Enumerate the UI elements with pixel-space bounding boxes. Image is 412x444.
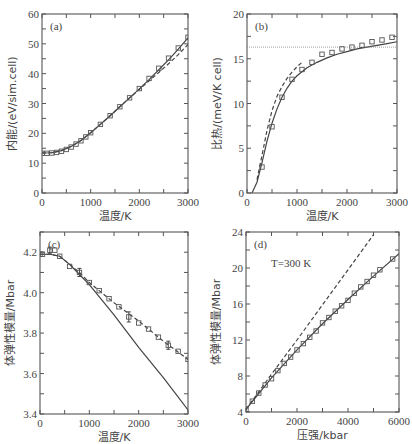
panel-label: (a)	[50, 20, 63, 33]
x-tick-label: 3000	[177, 196, 200, 208]
plot-area	[40, 35, 190, 155]
y-axis-label: 内能/(eV/sim.cell)	[5, 56, 19, 150]
y-tick-label: 30	[28, 98, 40, 110]
x-tick-label: 4000	[337, 415, 360, 427]
x-tick-label: 6000	[388, 415, 411, 427]
data-marker-square	[330, 50, 334, 54]
y-tick-label: 4.0	[23, 287, 37, 299]
data-marker-square	[370, 40, 374, 44]
x-tick-label: 0	[37, 417, 43, 429]
data-marker-square	[380, 38, 384, 42]
x-tick-label: 1000	[286, 196, 309, 208]
plot-area	[244, 235, 399, 412]
y-tick-label: 3.6	[23, 368, 37, 380]
panel-label: (d)	[254, 238, 267, 251]
x-axis-label: 温度/K	[98, 430, 132, 444]
y-tick-label: 0	[34, 187, 40, 199]
x-tick-label: 0	[244, 196, 250, 208]
x-tick-label: 0	[39, 196, 45, 208]
y-tick-label: 60	[28, 8, 40, 20]
x-tick-label: 0	[243, 415, 249, 427]
y-tick-label: 0	[239, 187, 245, 199]
y-tick-label: 8	[238, 370, 244, 382]
plot-frame	[40, 232, 188, 414]
panel-d: 02000400060004812162024压强/kbar体弹性模量/Mbar…	[209, 226, 411, 442]
figure: 01000200030000102030405060温度/K内能/(eV/sim…	[0, 0, 412, 444]
y-axis-label: 比热/(meV/K cell)	[211, 57, 224, 150]
y-tick-label: 3.4	[23, 408, 37, 420]
x-axis-label: 温度/K	[99, 209, 133, 223]
series-solid	[42, 38, 188, 153]
x-tick-label: 2000	[128, 417, 151, 429]
plot-frame	[42, 14, 188, 193]
data-marker-square	[320, 52, 324, 56]
x-tick-label: 1000	[80, 196, 103, 208]
y-tick-label: 12	[232, 334, 243, 346]
annotation: T=300 K	[271, 257, 311, 269]
y-tick-label: 50	[28, 38, 40, 50]
y-tick-label: 15	[233, 53, 245, 65]
y-tick-label: 4.2	[23, 246, 37, 258]
y-tick-label: 4	[238, 406, 244, 418]
x-tick-label: 1000	[78, 417, 101, 429]
panel-a: 01000200030000102030405060温度/K内能/(eV/sim…	[5, 8, 200, 223]
panel-b: 010002000300005101520温度/K比热/(meV/K cell)…	[211, 8, 409, 223]
series-solid	[40, 254, 188, 410]
series-solid	[252, 42, 397, 193]
plot-area	[247, 35, 397, 193]
y-axis-label: 体弹性模量/Mbar	[209, 278, 223, 365]
data-marker-square	[390, 35, 394, 39]
y-tick-label: 20	[232, 262, 244, 274]
plot-frame	[246, 232, 399, 412]
x-tick-label: 2000	[286, 415, 309, 427]
y-tick-label: 16	[232, 298, 244, 310]
plot-area	[38, 247, 190, 410]
y-tick-label: 20	[233, 8, 245, 20]
y-tick-label: 10	[233, 98, 245, 110]
y-tick-label: 24	[232, 226, 244, 238]
x-tick-label: 2000	[336, 196, 359, 208]
y-axis-label: 体弹性模量/Mbar	[3, 279, 17, 366]
y-tick-label: 20	[28, 127, 40, 139]
panel-label: (b)	[255, 20, 268, 33]
y-tick-label: 40	[28, 68, 40, 80]
x-axis-label: 压强/kbar	[297, 429, 348, 442]
x-tick-label: 2000	[128, 196, 151, 208]
series-dashed	[257, 62, 302, 179]
y-tick-label: 5	[239, 142, 245, 154]
x-axis-label: 温度/K	[306, 209, 340, 223]
y-tick-label: 3.8	[23, 327, 37, 339]
x-tick-label: 3000	[386, 196, 409, 208]
y-tick-label: 10	[28, 157, 40, 169]
x-tick-label: 3000	[177, 417, 200, 429]
panel-c: 01000200030003.43.63.84.04.2温度/K体弹性模量/Mb…	[3, 232, 200, 444]
